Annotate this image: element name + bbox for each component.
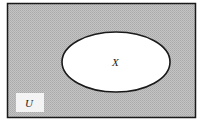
set-x-label: X (111, 56, 120, 68)
universe-label: U (25, 97, 34, 109)
venn-diagram: X U (0, 0, 201, 126)
